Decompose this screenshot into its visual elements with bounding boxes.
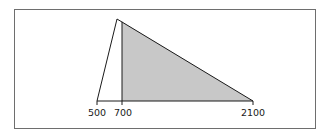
axis-label-2100: 2100: [241, 108, 265, 118]
axis-label-500: 500: [88, 108, 106, 118]
triangle-diagram: [0, 0, 329, 137]
axis-label-700: 700: [114, 108, 132, 118]
